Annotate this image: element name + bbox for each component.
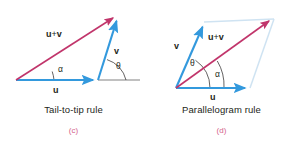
vector-addition-figure: u+v v u α θ Tail-to-tip rule (c) bbox=[0, 0, 295, 152]
label-alpha: α bbox=[58, 65, 63, 74]
label-v: v bbox=[174, 42, 179, 51]
label-v: v bbox=[114, 47, 119, 56]
label-theta: θ bbox=[116, 62, 121, 71]
label-u-plus-v: u+v bbox=[208, 33, 224, 42]
label-u: u bbox=[210, 93, 216, 102]
tail-to-tip-diagram bbox=[0, 0, 147, 100]
label-u-plus-v: u+v bbox=[46, 30, 62, 39]
panel-parallelogram: u+v v u θ α Parallelogram rule (d) bbox=[148, 0, 295, 152]
panel-tail-to-tip: u+v v u α θ Tail-to-tip rule (c) bbox=[0, 0, 147, 152]
panel-caption-tail-to-tip: Tail-to-tip rule bbox=[0, 104, 147, 115]
vector-u-plus-v bbox=[16, 18, 113, 80]
label-alpha: α bbox=[215, 70, 220, 79]
parallelogram-ghost-top bbox=[204, 19, 274, 22]
parallelogram-diagram bbox=[148, 0, 295, 100]
parallelogram-ghost-right bbox=[250, 19, 274, 88]
label-u: u bbox=[53, 86, 59, 95]
panel-sublabel-d: (d) bbox=[148, 126, 295, 135]
label-v-part: v bbox=[57, 29, 62, 39]
panel-sublabel-c: (c) bbox=[0, 126, 147, 135]
panel-caption-parallelogram: Parallelogram rule bbox=[148, 104, 295, 115]
label-theta: θ bbox=[190, 59, 195, 68]
label-v-part: v bbox=[219, 32, 224, 42]
angle-arc-alpha bbox=[52, 72, 54, 81]
